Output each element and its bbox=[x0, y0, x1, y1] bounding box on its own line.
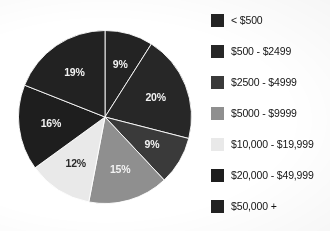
legend-item-label: $10,000 - $19,999 bbox=[231, 138, 314, 151]
legend-color-swatch bbox=[211, 45, 224, 58]
chart-title-fragment bbox=[0, 0, 330, 7]
legend-item[interactable]: $50,000 + bbox=[211, 198, 330, 215]
legend-item[interactable]: $2500 - $4999 bbox=[211, 74, 330, 91]
legend-item-label: $2500 - $4999 bbox=[231, 76, 297, 89]
pie-slice-value-label: 12% bbox=[66, 157, 87, 169]
legend-item[interactable]: < $500 bbox=[211, 12, 330, 29]
legend-item-label: $5000 - $9999 bbox=[231, 107, 297, 120]
pie-slice-value-label: 9% bbox=[145, 138, 161, 150]
pie-chart-figure: 9%20%9%15%12%16%19% < $500$500 - $2499$2… bbox=[0, 0, 330, 231]
pie-slice-value-label: 9% bbox=[113, 58, 129, 70]
pie-slice-value-label: 19% bbox=[64, 66, 85, 78]
legend-color-swatch bbox=[211, 169, 224, 182]
legend-item[interactable]: $5000 - $9999 bbox=[211, 105, 330, 122]
legend-item[interactable]: $500 - $2499 bbox=[211, 43, 330, 60]
legend-color-swatch bbox=[211, 107, 224, 120]
chart-legend: < $500$500 - $2499$2500 - $4999$5000 - $… bbox=[211, 12, 330, 215]
legend-color-swatch bbox=[211, 200, 224, 213]
pie-svg: 9%20%9%15%12%16%19% bbox=[18, 30, 192, 204]
legend-item-label: < $500 bbox=[231, 14, 263, 27]
legend-item-label: $20,000 - $49,999 bbox=[231, 169, 314, 182]
legend-item[interactable]: $20,000 - $49,999 bbox=[211, 167, 330, 184]
pie-chart-plot-area: 9%20%9%15%12%16%19% bbox=[18, 30, 192, 204]
pie-slice-value-label: 15% bbox=[110, 163, 131, 175]
legend-item[interactable]: $10,000 - $19,999 bbox=[211, 136, 330, 153]
legend-color-swatch bbox=[211, 138, 224, 151]
legend-color-swatch bbox=[211, 76, 224, 89]
legend-item-label: $500 - $2499 bbox=[231, 45, 291, 58]
legend-color-swatch bbox=[211, 14, 224, 27]
pie-slice-value-label: 16% bbox=[41, 117, 62, 129]
pie-slice-value-label: 20% bbox=[145, 91, 166, 103]
legend-item-label: $50,000 + bbox=[231, 200, 277, 213]
